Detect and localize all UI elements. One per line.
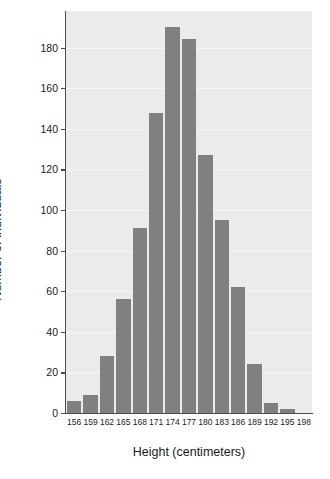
y-tick-label: 140 xyxy=(40,123,58,135)
x-tick-label: 189 xyxy=(248,417,262,427)
y-axis-title: Number of individuals xyxy=(0,0,22,479)
x-axis-spine xyxy=(65,413,313,414)
y-tick-mark xyxy=(61,210,66,211)
histogram-bar xyxy=(165,27,179,413)
histogram-bar xyxy=(83,395,97,413)
y-tick-label: 160 xyxy=(40,82,58,94)
y-tick-mark xyxy=(61,251,66,252)
x-tick-label: 162 xyxy=(100,417,114,427)
x-tick-label: 195 xyxy=(280,417,294,427)
histogram-bar xyxy=(231,287,245,413)
y-axis-title-text: Number of individuals xyxy=(0,178,4,300)
y-tick-label: 0 xyxy=(52,407,58,419)
x-tick-label: 198 xyxy=(297,417,311,427)
x-tick-label: 174 xyxy=(166,417,180,427)
x-axis-title: Height (centimeters) xyxy=(66,445,312,459)
histogram-bar xyxy=(100,356,114,413)
y-tick-label: 80 xyxy=(46,245,58,257)
histogram-bar xyxy=(182,39,196,413)
histogram-figure: Number of individuals 020406080100120140… xyxy=(0,0,330,479)
y-tick-label: 20 xyxy=(46,366,58,378)
x-tick-label: 168 xyxy=(133,417,147,427)
x-tick-label: 183 xyxy=(215,417,229,427)
y-tick-label: 100 xyxy=(40,204,58,216)
histogram-bar xyxy=(198,155,212,413)
y-tick-mark xyxy=(61,413,66,414)
y-tick-mark xyxy=(61,88,66,89)
plot-area xyxy=(66,11,312,413)
y-tick-mark xyxy=(61,169,66,170)
x-tick-label: 165 xyxy=(116,417,130,427)
y-tick-label: 120 xyxy=(40,163,58,175)
histogram-bar xyxy=(133,228,147,413)
y-tick-mark xyxy=(61,129,66,130)
y-tick-mark xyxy=(61,332,66,333)
y-tick-label: 60 xyxy=(46,285,58,297)
histogram-bar xyxy=(264,403,278,413)
x-tick-label: 171 xyxy=(149,417,163,427)
y-tick-mark xyxy=(61,372,66,373)
y-tick-label: 40 xyxy=(46,326,58,338)
y-axis-spine xyxy=(65,11,66,414)
x-tick-label: 156 xyxy=(67,417,81,427)
y-tick-label: 180 xyxy=(40,42,58,54)
histogram-bar xyxy=(116,299,130,413)
x-tick-label: 159 xyxy=(84,417,98,427)
histogram-bar xyxy=(247,364,261,413)
x-tick-label: 180 xyxy=(198,417,212,427)
y-tick-mark xyxy=(61,291,66,292)
histogram-bar xyxy=(215,220,229,413)
histogram-bar xyxy=(149,113,163,413)
x-tick-label: 192 xyxy=(264,417,278,427)
x-tick-label: 186 xyxy=(231,417,245,427)
y-tick-mark xyxy=(61,48,66,49)
histogram-bar xyxy=(67,401,81,413)
x-tick-label: 177 xyxy=(182,417,196,427)
